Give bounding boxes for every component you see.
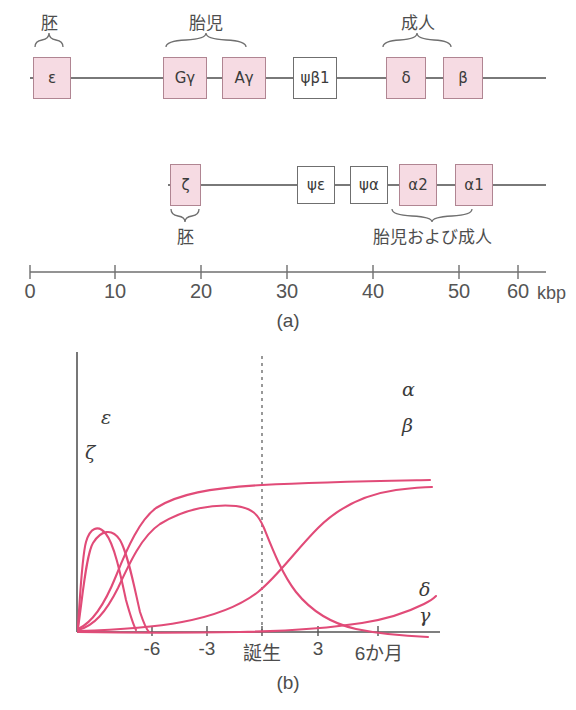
scale-tick-label-50: 50 (439, 280, 479, 303)
gene-label: Gγ (175, 71, 196, 86)
bracket-label-alpha-embryonic: 胚 (155, 223, 215, 248)
scale-tick-label-0: 0 (10, 280, 50, 303)
curve-label-alpha: α (402, 378, 415, 400)
curve-label-beta: β (402, 414, 413, 436)
gene-box-zeta[interactable]: ζ (170, 164, 201, 206)
bracket-label-beta-fetal: 胎児 (166, 9, 246, 34)
curve-label-gamma: γ (419, 604, 430, 626)
gene-label: ζ (181, 178, 189, 193)
gene-label: β (458, 71, 468, 86)
bracket-alpha-fetal-adult (392, 209, 472, 222)
gene-label: ψβ1 (300, 71, 329, 86)
chart-xtick-label-birth: 誕生 (228, 638, 296, 665)
panel-b-chart (0, 348, 576, 678)
gene-label: α2 (408, 178, 427, 193)
scale-tick-label-40: 40 (353, 280, 393, 303)
scale-unit-label: kbp (537, 283, 566, 304)
gene-label: δ (401, 71, 410, 86)
gene-label: ε (48, 71, 56, 86)
curve-label-delta: δ (419, 578, 430, 600)
gene-box-alpha1[interactable]: α1 (455, 164, 493, 206)
panel-b-caption: (b) (0, 672, 576, 694)
curve-label-epsilon: ε (101, 406, 111, 428)
gene-box-psi-beta1[interactable]: ψβ1 (293, 57, 337, 99)
gene-box-psi-alpha[interactable]: ψα (350, 166, 388, 204)
chart-xtick-label-6months: 6か月 (344, 638, 414, 665)
gene-box-epsilon[interactable]: ε (33, 57, 71, 99)
figure-root: ε Gγ Aγ ψβ1 δ β 胚 胎児 成人 ζ ψε ψα α2 α1 胚 … (0, 0, 576, 710)
bracket-label-alpha-fetal-adult: 胎児および成人 (352, 223, 512, 248)
gene-box-psi-epsilon[interactable]: ψε (297, 166, 335, 204)
panel-a-gene-map (0, 0, 576, 300)
scale-tick-label-60: 60 (498, 280, 538, 303)
gene-box-delta[interactable]: δ (386, 57, 426, 99)
chart-xtick-label-3: 3 (298, 638, 338, 660)
bracket-alpha-embryonic (171, 209, 199, 222)
gene-box-g-gamma[interactable]: Gγ (163, 57, 207, 99)
gene-box-a-gamma[interactable]: Aγ (222, 57, 266, 99)
curve-zeta (78, 528, 136, 630)
curve-alpha (78, 480, 430, 629)
panel-a-caption: (a) (0, 310, 576, 332)
scale-tick-label-20: 20 (181, 280, 221, 303)
gene-box-beta[interactable]: β (443, 57, 483, 99)
gene-label: α1 (464, 178, 483, 193)
bracket-beta-embryonic (35, 33, 63, 47)
chart-xtick-label-minus3: -3 (187, 638, 227, 660)
bracket-label-beta-adult: 成人 (383, 9, 453, 34)
scale-tick-label-10: 10 (95, 280, 135, 303)
bracket-beta-adult (383, 33, 451, 47)
gene-label: ψα (359, 178, 379, 193)
scale-tick-label-30: 30 (267, 280, 307, 303)
gene-box-alpha2[interactable]: α2 (399, 164, 437, 206)
bracket-beta-fetal (166, 33, 246, 47)
chart-xtick-label-minus6: -6 (132, 638, 172, 660)
gene-label: Aγ (234, 71, 253, 86)
gene-label: ψε (307, 178, 325, 193)
bracket-label-beta-embryonic: 胚 (19, 9, 79, 34)
curve-label-zeta: ζ (85, 441, 95, 463)
